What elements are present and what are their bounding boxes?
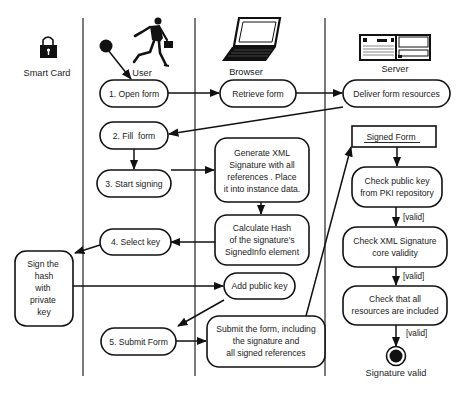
laptop-icon xyxy=(222,18,280,61)
activity-diagram: Smart Card User Browser Server xyxy=(0,0,468,393)
svg-text:Deliver form resources: Deliver form resources xyxy=(353,89,439,99)
lock-icon xyxy=(40,37,57,58)
action-add-public-key: Add public key xyxy=(224,273,295,299)
running-businessman-icon xyxy=(134,18,173,67)
edge-submit-including-signed-form xyxy=(306,147,351,316)
svg-text:Check public key: Check public key xyxy=(365,176,431,186)
action-retrieve-form: Retrieve form xyxy=(220,80,296,107)
action-generate-xml-signature: Generate XML Signature with all referenc… xyxy=(215,138,309,202)
svg-text:core validity: core validity xyxy=(372,248,418,258)
guard-valid-1: [valid] xyxy=(403,213,424,222)
svg-text:1. Open form: 1. Open form xyxy=(109,89,159,99)
lane-label-server: Server xyxy=(381,64,408,74)
edge-start-open-form xyxy=(108,50,131,79)
action-check-resources-included: Check that all resources are included xyxy=(343,286,447,325)
svg-text:Retrieve form: Retrieve form xyxy=(232,89,284,99)
guard-valid-3: [valid] xyxy=(406,329,427,338)
lane-label-smart-card: Smart Card xyxy=(24,68,71,78)
lane-label-user: User xyxy=(132,68,151,78)
svg-text:references . Place: references . Place xyxy=(227,172,296,182)
action-submit-form: 5. Submit Form xyxy=(101,328,176,355)
action-fill-form: 2. Fill form xyxy=(100,122,168,149)
svg-text:it into instance data.: it into instance data. xyxy=(224,184,300,194)
action-open-form: 1. Open form xyxy=(100,80,168,107)
svg-text:2. Fill form: 2. Fill form xyxy=(113,131,156,141)
final-node xyxy=(387,347,406,366)
svg-text:with: with xyxy=(34,283,51,293)
guard-valid-2: [valid] xyxy=(403,272,424,281)
svg-text:resources are included: resources are included xyxy=(352,306,439,316)
action-sign-hash: Sign the hash with private key xyxy=(15,251,73,326)
svg-text:Add public key: Add public key xyxy=(232,281,289,291)
svg-text:5. Submit Form: 5. Submit Form xyxy=(109,337,168,347)
svg-text:of the signature's: of the signature's xyxy=(229,235,294,245)
action-submit-form-including: Submit the form, including the signature… xyxy=(207,316,325,367)
svg-text:3. Start signing: 3. Start signing xyxy=(105,179,163,189)
svg-text:private: private xyxy=(30,295,56,305)
svg-text:Sign the: Sign the xyxy=(27,259,59,269)
action-start-signing: 3. Start signing xyxy=(97,170,171,197)
svg-text:the signature and: the signature and xyxy=(233,336,300,346)
svg-text:key: key xyxy=(37,307,51,317)
svg-text:from PKI repository: from PKI repository xyxy=(360,188,434,198)
svg-text:all signed references: all signed references xyxy=(226,348,305,358)
server-icon xyxy=(360,35,430,60)
svg-text:Check XML Signature: Check XML Signature xyxy=(353,236,436,246)
final-node-label: Signature valid xyxy=(366,368,427,378)
action-calculate-hash: Calculate Hash of the signature's Signed… xyxy=(215,215,309,265)
lane-label-browser: Browser xyxy=(229,67,263,77)
svg-text:hash: hash xyxy=(35,271,54,281)
edge-select-key-sign xyxy=(75,245,100,253)
svg-text:SignedInfo element: SignedInfo element xyxy=(225,247,300,257)
action-check-public-key: Check public key from PKI repository xyxy=(352,167,442,207)
action-select-key: 4. Select key xyxy=(100,229,171,255)
initial-node xyxy=(100,40,113,53)
action-deliver-form-resources: Deliver form resources xyxy=(343,80,450,107)
svg-text:Generate XML: Generate XML xyxy=(234,148,290,158)
svg-text:Submit the form, including: Submit the form, including xyxy=(216,324,316,334)
svg-text:Signature with all: Signature with all xyxy=(229,160,295,170)
object-signed-form: Signed Form xyxy=(352,126,436,147)
svg-text:Calculate Hash: Calculate Hash xyxy=(233,223,291,233)
svg-text:Signed Form: Signed Form xyxy=(366,132,415,142)
svg-text:4. Select key: 4. Select key xyxy=(111,237,161,247)
svg-text:Check that all: Check that all xyxy=(369,294,421,304)
action-check-xml-signature: Check XML Signature core validity xyxy=(343,227,447,267)
